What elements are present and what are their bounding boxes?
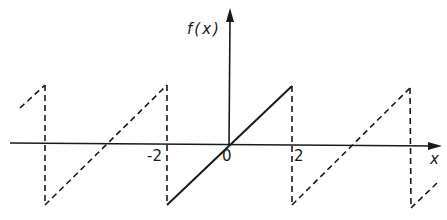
x-axis (10, 143, 435, 146)
sawtooth-chart: f(x) -2 0 2 x (0, 0, 447, 220)
y-axis-arrow-icon (226, 8, 234, 22)
tick-label-neg2: -2 (147, 149, 162, 164)
dashed-extension-left (20, 85, 167, 205)
y-axis-label: f(x) (187, 22, 221, 37)
x-axis-arrow-icon (428, 142, 442, 150)
tick-label-0: 0 (222, 149, 232, 164)
y-axis (229, 18, 230, 145)
chart-canvas (0, 0, 447, 220)
x-axis-label: x (430, 152, 439, 167)
dashed-extension-right (292, 86, 437, 208)
tick-label-2: 2 (294, 149, 304, 164)
